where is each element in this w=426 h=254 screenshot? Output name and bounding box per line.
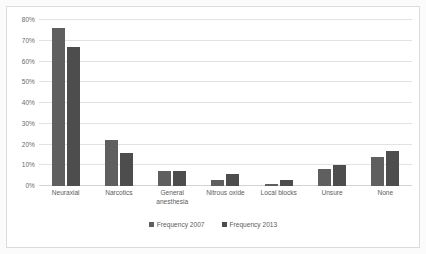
bar-chart: 0%10%20%30%40%50%60%70%80% NeuraxialNarc… bbox=[7, 7, 419, 247]
bar[interactable] bbox=[318, 169, 331, 186]
legend-swatch-icon bbox=[222, 222, 227, 227]
y-axis-tick-label: 60% bbox=[22, 57, 35, 64]
x-axis-tick-label: Narcotics bbox=[92, 189, 145, 206]
bar[interactable] bbox=[120, 153, 133, 186]
bar[interactable] bbox=[226, 174, 239, 186]
bar-group bbox=[39, 20, 92, 186]
legend-swatch-icon bbox=[149, 222, 154, 227]
x-axis-tick-label: None bbox=[359, 189, 412, 206]
bar-group bbox=[92, 20, 145, 186]
y-axis-tick-label: 40% bbox=[22, 99, 35, 106]
x-axis-tick-label: Nitrous oxide bbox=[199, 189, 252, 206]
x-axis-tick-label: Neuraxial bbox=[39, 189, 92, 206]
bars-layer bbox=[39, 20, 412, 186]
bar-group bbox=[305, 20, 358, 186]
y-axis-tick-label: 70% bbox=[22, 36, 35, 43]
bar-group bbox=[199, 20, 252, 186]
y-axis-tick-label: 20% bbox=[22, 140, 35, 147]
chart-frame: 0%10%20%30%40%50%60%70%80% NeuraxialNarc… bbox=[6, 6, 420, 248]
bar[interactable] bbox=[333, 165, 346, 186]
x-axis-tick-label: Local blocks bbox=[252, 189, 305, 206]
bar-group bbox=[252, 20, 305, 186]
bar[interactable] bbox=[211, 180, 224, 186]
bar[interactable] bbox=[105, 140, 118, 186]
y-axis-tick-label: 0% bbox=[25, 182, 35, 189]
legend-label: Frequency 2007 bbox=[157, 221, 205, 228]
x-axis-tick-label: Unsure bbox=[305, 189, 358, 206]
bar[interactable] bbox=[67, 47, 80, 186]
legend-item[interactable]: Frequency 2013 bbox=[222, 221, 278, 228]
y-axis-tick-label: 30% bbox=[22, 119, 35, 126]
y-axis-tick-label: 80% bbox=[22, 16, 35, 23]
bar[interactable] bbox=[173, 171, 186, 186]
bar[interactable] bbox=[158, 171, 171, 186]
legend-label: Frequency 2013 bbox=[230, 221, 278, 228]
bar[interactable] bbox=[386, 151, 399, 186]
bar[interactable] bbox=[280, 180, 293, 186]
y-axis-tick-label: 10% bbox=[22, 161, 35, 168]
chart-legend: Frequency 2007Frequency 2013 bbox=[7, 221, 419, 228]
bar-group bbox=[146, 20, 199, 186]
y-axis-tick-label: 50% bbox=[22, 78, 35, 85]
bar[interactable] bbox=[371, 157, 384, 186]
x-axis-tick-label: General anesthesia bbox=[146, 189, 199, 206]
bar[interactable] bbox=[52, 28, 65, 186]
scanned-page-frame: 0%10%20%30%40%50%60%70%80% NeuraxialNarc… bbox=[0, 0, 426, 254]
bar[interactable] bbox=[265, 184, 278, 186]
bar-group bbox=[359, 20, 412, 186]
legend-item[interactable]: Frequency 2007 bbox=[149, 221, 205, 228]
x-axis-labels: NeuraxialNarcoticsGeneral anesthesiaNitr… bbox=[39, 189, 412, 206]
plot-area: 0%10%20%30%40%50%60%70%80% bbox=[39, 20, 412, 186]
